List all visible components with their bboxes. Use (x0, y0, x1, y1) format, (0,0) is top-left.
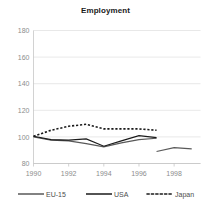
x-tick-label: 1994 (96, 170, 112, 177)
y-tick-label: 100 (18, 134, 30, 141)
x-tick-label: 1998 (166, 170, 182, 177)
data-series (34, 124, 192, 151)
x-tick-label: 1996 (131, 170, 147, 177)
chart-plot: 80100120140160180 19901992199419961998 E… (0, 0, 211, 209)
legend-label-usa: USA (114, 191, 129, 198)
x-tick-label: 1990 (26, 170, 42, 177)
series-line-japan (34, 124, 157, 136)
y-tick-label: 160 (18, 54, 30, 61)
legend-label-japan: Japan (175, 191, 194, 199)
chart-container: Employment 80100120140160180 19901992199… (0, 0, 211, 209)
series-line-eu-15 (34, 137, 157, 147)
series-line-eu-15-segment2 (157, 148, 192, 152)
x-axis: 19901992199419961998 (26, 164, 201, 177)
chart-legend: EU-15USAJapan (18, 191, 194, 199)
y-tick-label: 180 (18, 27, 30, 34)
x-tick-label: 1992 (61, 170, 77, 177)
y-tick-label: 120 (18, 107, 30, 114)
legend-label-eu-15: EU-15 (46, 191, 66, 198)
y-axis: 80100120140160180 (18, 27, 34, 167)
y-tick-label: 140 (18, 80, 30, 87)
y-tick-label: 80 (22, 160, 30, 167)
